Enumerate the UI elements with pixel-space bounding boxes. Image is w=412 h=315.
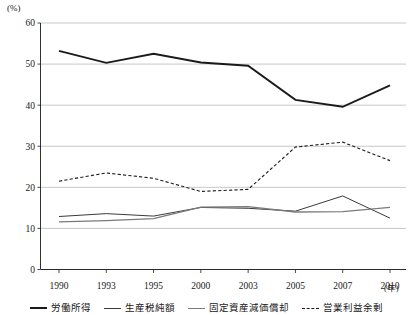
- x-tick-label: 2005: [286, 281, 305, 291]
- y-tick-label: 60: [26, 18, 36, 28]
- y-tick-label: 50: [26, 59, 36, 69]
- legend-swatch-icon: [302, 308, 319, 309]
- legend-item-3[interactable]: 営業利益余剰: [302, 304, 383, 314]
- x-tick-label: 1995: [144, 281, 163, 291]
- chart-plot-area: 6050403020100 19901993199520002003200520…: [0, 0, 412, 315]
- series-line-0: [59, 51, 390, 107]
- x-tick-label: 1993: [97, 281, 116, 291]
- chart-container: (%) 6050403020100 1990199319952000200320…: [0, 0, 412, 315]
- legend-item-0[interactable]: 労働所得: [30, 304, 91, 314]
- y-tick-label: 40: [26, 101, 36, 111]
- x-tick-label: 2003: [239, 281, 258, 291]
- chart-legend: 労働所得生産税純額固定資産減価償却営業利益余剰: [0, 304, 412, 314]
- legend-label: 労働所得: [51, 304, 91, 314]
- y-tick-label: 0: [30, 265, 35, 275]
- legend-label: 営業利益余剰: [323, 304, 383, 314]
- legend-label: 固定資産減価償却: [209, 304, 289, 314]
- y-tick-label: 30: [26, 142, 36, 152]
- x-axis-tickmarks: [59, 270, 390, 274]
- series-group: [59, 51, 390, 222]
- legend-label: 生産税純額: [125, 304, 175, 314]
- x-tick-label: 2000: [191, 281, 210, 291]
- y-axis-tick-labels: 6050403020100: [26, 18, 41, 275]
- legend-item-2[interactable]: 固定資産減価償却: [188, 304, 289, 314]
- y-tick-label: 20: [26, 183, 36, 193]
- x-tick-label: 2007: [333, 281, 352, 291]
- x-tick-label: 1990: [50, 281, 69, 291]
- series-line-3: [59, 142, 390, 191]
- legend-swatch-icon: [188, 308, 205, 309]
- legend-swatch-icon: [104, 308, 121, 309]
- legend-item-1[interactable]: 生産税純額: [104, 304, 175, 314]
- y-tick-label: 10: [26, 224, 36, 234]
- legend-swatch-icon: [30, 307, 47, 309]
- x-axis-tick-labels: 19901993199520002003200520072010: [50, 281, 400, 291]
- x-axis-unit-label: (年): [384, 283, 399, 293]
